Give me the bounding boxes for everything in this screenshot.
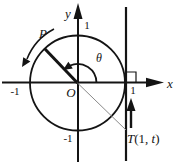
unit-circle-diagram: y 1 P θ -1 O 1 x -1 T(1, t) xyxy=(0,0,183,168)
tick-minus-one-bottom: -1 xyxy=(63,133,72,144)
y-axis-label: y xyxy=(65,7,71,20)
tick-minus-one-left: -1 xyxy=(10,86,19,97)
y-axis-arrowhead-icon xyxy=(74,3,83,19)
point-p-label: P xyxy=(39,27,47,40)
rotation-direction-arrowhead-icon xyxy=(22,57,30,67)
angle-theta-label: θ xyxy=(96,52,102,64)
tick-one-top: 1 xyxy=(84,20,90,31)
point-t-open: (1, xyxy=(134,131,151,146)
x-axis-arrowhead-icon xyxy=(146,78,164,87)
right-angle-marker xyxy=(126,72,136,83)
radius-op-line xyxy=(45,49,78,84)
point-t-close: ) xyxy=(155,131,159,146)
origin-label: O xyxy=(66,86,75,99)
x-axis-label: x xyxy=(167,77,173,90)
t-pointer-arrowhead-icon xyxy=(127,98,136,111)
tick-one-right: 1 xyxy=(130,85,136,96)
point-t-label: T(1, t) xyxy=(127,132,160,145)
